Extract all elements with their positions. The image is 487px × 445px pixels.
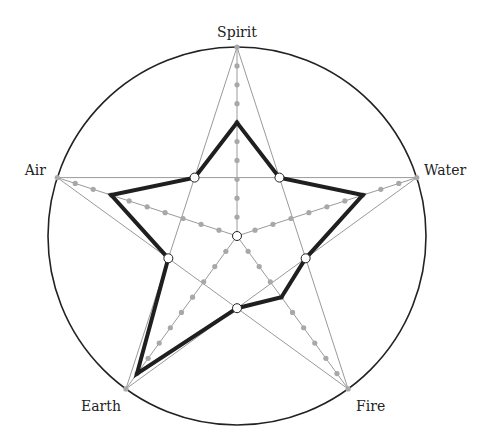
tick-dot [234,82,239,87]
valley-marker [301,254,310,263]
tick-dot [123,386,128,391]
tick-dot [252,228,257,233]
tick-dot [223,249,228,254]
tick-dot [378,187,383,192]
tick-dot [288,216,293,221]
tick-dot [234,215,239,220]
tick-dot [168,325,173,330]
tick-dot [234,177,239,182]
tick-dot [234,44,239,49]
valley-marker [275,173,284,182]
tick-dot [234,63,239,68]
axis-label-water: Water [424,162,466,178]
tick-dot [257,264,262,269]
tick-dot [198,222,203,227]
tick-dot [312,340,317,345]
axis-label-air: Air [24,162,47,178]
valley-marker [233,232,242,241]
tick-dot [180,216,185,221]
tick-dot [234,196,239,201]
valley-marker [190,173,199,182]
tick-dot [55,175,60,180]
tick-dot [301,325,306,330]
axis-label-earth: Earth [81,398,121,414]
tick-dot [146,356,151,361]
tick-dot [323,356,328,361]
tick-dot [396,181,401,186]
tick-dot [145,204,150,209]
tick-dot [157,340,162,345]
tick-dot [306,210,311,215]
tick-dot [212,264,217,269]
tick-dot [324,204,329,209]
valley-marker [233,304,242,313]
tick-dot [163,210,168,215]
tick-dot [270,222,275,227]
tick-dot [246,249,251,254]
tick-dot [290,310,295,315]
tick-dot [234,158,239,163]
tick-dot [234,101,239,106]
valley-marker [164,254,173,263]
axis-label-spirit: Spirit [217,24,257,40]
tick-dot [201,279,206,284]
tick-dot [91,187,96,192]
tick-dot [127,198,132,203]
tick-dot [73,181,78,186]
tick-dot [342,198,347,203]
tick-dot [345,386,350,391]
tick-dot [268,279,273,284]
tick-dot [334,371,339,376]
tick-dot [190,295,195,300]
radar-chart: Spirit Water Fire Earth Air [0,0,487,445]
tick-dot [179,310,184,315]
tick-dot [234,139,239,144]
axis-label-fire: Fire [356,398,385,414]
tick-dot [216,228,221,233]
tick-dot [414,175,419,180]
